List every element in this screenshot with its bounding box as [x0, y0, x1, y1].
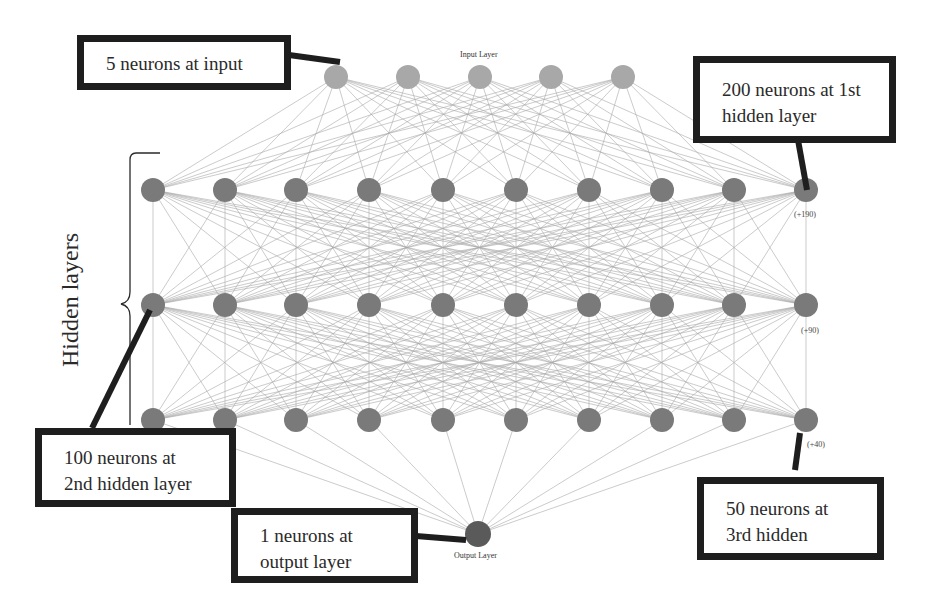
- edge: [153, 77, 480, 190]
- neuron-node: [794, 408, 818, 432]
- edge: [480, 77, 662, 190]
- edge: [589, 77, 623, 190]
- neuron-node: [431, 178, 455, 202]
- pointer-hidden2: [92, 310, 150, 428]
- edge: [478, 420, 734, 534]
- neuron-node: [324, 65, 348, 89]
- callout-hidden2-line1: 100 neurons at: [64, 445, 229, 471]
- neuron-node: [577, 178, 601, 202]
- callout-hidden2: 100 neurons at 2nd hidden layer: [35, 428, 236, 507]
- callout-output: 1 neurons at output layer: [231, 508, 418, 583]
- neuron-node: [504, 408, 528, 432]
- neuron-node: [396, 65, 420, 89]
- edge: [443, 77, 480, 190]
- callout-hidden1-line1: 200 neurons at 1st: [722, 77, 889, 103]
- input-layer-label: Input Layer: [460, 50, 498, 59]
- neuron-node: [650, 408, 674, 432]
- edge: [153, 77, 408, 190]
- callout-hidden3-line1: 50 neurons at: [726, 496, 877, 522]
- edge: [478, 420, 516, 534]
- edge: [408, 77, 443, 190]
- neuron-node: [722, 178, 746, 202]
- neuron-node: [431, 408, 455, 432]
- edge: [480, 77, 516, 190]
- neuron-node: [357, 293, 381, 317]
- edge: [408, 77, 589, 190]
- callout-hidden1: 200 neurons at 1st hidden layer: [693, 56, 896, 143]
- edge: [443, 77, 623, 190]
- neuron-node: [213, 178, 237, 202]
- output-layer-label: Output Layer: [454, 551, 497, 560]
- neuron-node: [650, 178, 674, 202]
- neuron-node: [431, 293, 455, 317]
- hidden1-overflow-count: (+190): [794, 210, 816, 219]
- callout-hidden2-line2: 2nd hidden layer: [64, 471, 229, 497]
- edge: [551, 77, 589, 190]
- edge: [551, 77, 662, 190]
- edge: [478, 420, 589, 534]
- neuron-node: [141, 178, 165, 202]
- neuron-node: [284, 293, 308, 317]
- edge: [623, 77, 662, 190]
- edge: [153, 77, 336, 190]
- pointer-input: [289, 55, 340, 62]
- neuron-node: [722, 408, 746, 432]
- neuron-node: [504, 293, 528, 317]
- callout-hidden3-line2: 3rd hidden: [726, 522, 877, 548]
- neuron-node: [468, 65, 492, 89]
- neuron-node: [465, 521, 491, 547]
- pointer-output: [416, 536, 466, 540]
- neuron-node: [577, 293, 601, 317]
- edge: [336, 77, 589, 190]
- neuron-node: [722, 293, 746, 317]
- hidden2-overflow-count: (+90): [801, 326, 819, 335]
- neuron-node: [284, 408, 308, 432]
- edge: [443, 420, 478, 534]
- edge: [336, 77, 516, 190]
- neuron-node: [141, 293, 165, 317]
- callout-output-line2: output layer: [260, 549, 411, 575]
- hidden3-overflow-count: (+40): [807, 440, 825, 449]
- callout-input: 5 neurons at input: [77, 35, 291, 90]
- neuron-node: [284, 178, 308, 202]
- neuron-node: [357, 408, 381, 432]
- connection-edges: [153, 77, 806, 534]
- callout-input-text: 5 neurons at input: [106, 51, 284, 77]
- neuron-node: [357, 178, 381, 202]
- neuron-node: [577, 408, 601, 432]
- callout-hidden3: 50 neurons at 3rd hidden: [697, 477, 884, 560]
- neuron-node: [539, 65, 563, 89]
- neuron-node: [794, 293, 818, 317]
- neuron-node: [650, 293, 674, 317]
- neuron-node: [611, 65, 635, 89]
- neuron-node: [213, 293, 237, 317]
- hidden-layers-label: Hidden layers: [57, 225, 84, 375]
- edge: [153, 77, 623, 190]
- callout-output-line1: 1 neurons at: [260, 523, 411, 549]
- neuron-node: [504, 178, 528, 202]
- edge: [478, 420, 662, 534]
- callout-hidden1-line2: hidden layer: [722, 103, 889, 129]
- pointer-hidden3: [795, 433, 800, 470]
